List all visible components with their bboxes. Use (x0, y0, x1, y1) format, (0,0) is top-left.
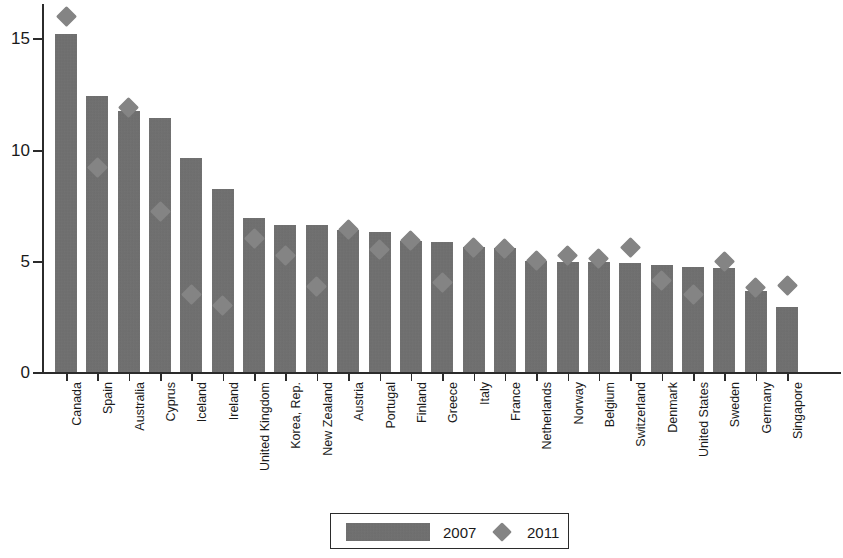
bar-france (494, 248, 516, 372)
bar-singapore (776, 307, 798, 372)
x-axis-tick-mark (129, 373, 131, 381)
legend-label-2011: 2011 (527, 525, 559, 540)
x-axis-tick-mark (160, 373, 162, 381)
x-axis-label-denmark: Denmark (667, 382, 680, 433)
x-axis-tick-mark (536, 373, 538, 381)
x-axis-tick-mark (756, 373, 758, 381)
x-axis-label-germany: Germany (761, 382, 774, 433)
x-axis-tick-mark (380, 373, 382, 381)
bar-netherlands (525, 261, 547, 372)
bar-norway (557, 262, 579, 372)
x-axis-tick-mark (693, 373, 695, 381)
x-axis-tick-mark (254, 373, 256, 381)
bar-ireland (212, 189, 234, 372)
bar-belgium (588, 262, 610, 372)
x-axis-label-netherlands: Netherlands (541, 382, 554, 449)
legend-label-2007: 2007 (443, 525, 476, 540)
x-axis-label-ireland: Ireland (228, 382, 241, 420)
x-axis-tick-mark (348, 373, 350, 381)
x-axis-label-cyprus: Cyprus (165, 382, 178, 422)
x-axis-label-australia: Australia (134, 382, 147, 431)
x-axis-label-canada: Canada (71, 382, 84, 426)
y-tick-label-5: 5 (2, 253, 30, 270)
x-axis-label-switzerland: Switzerland (635, 382, 648, 447)
y-axis-tick-mark (33, 38, 42, 40)
chart-figure: 15 10 5 0 CanadaSpainAustraliaCyprusIcel… (0, 0, 843, 558)
x-axis-label-united-kingdom: United Kingdom (259, 382, 272, 471)
x-axis-label-belgium: Belgium (604, 382, 617, 427)
x-axis-tick-mark (411, 373, 413, 381)
x-axis-tick-mark (66, 373, 68, 381)
x-axis-tick-mark (724, 373, 726, 381)
x-axis-label-austria: Austria (353, 382, 366, 421)
bar-finland (400, 241, 422, 372)
x-axis-label-portugal: Portugal (385, 382, 398, 429)
x-axis-tick-mark (630, 373, 632, 381)
x-axis-tick-mark (223, 373, 225, 381)
bar-greece (431, 242, 453, 372)
x-axis-label-norway: Norway (573, 382, 586, 424)
y-axis-labels: 15 10 5 0 (0, 0, 30, 373)
legend-swatch-2007 (346, 523, 430, 541)
bar-canada (55, 34, 77, 372)
x-axis-tick-mark (568, 373, 570, 381)
chart-legend: 2007 2011 (330, 513, 569, 549)
plot-series-area (42, 0, 843, 372)
x-axis-label-spain: Spain (102, 382, 115, 414)
x-axis-labels: CanadaSpainAustraliaCyprusIcelandIreland… (42, 382, 843, 502)
x-axis-tick-mark (599, 373, 601, 381)
bar-iceland (180, 158, 202, 372)
x-axis-tick-mark (97, 373, 99, 381)
x-axis-label-greece: Greece (447, 382, 460, 423)
marker-switzerland (620, 237, 641, 258)
x-axis-label-france: France (510, 382, 523, 421)
bar-switzerland (619, 263, 641, 372)
x-axis-label-finland: Finland (416, 382, 429, 423)
x-axis-label-korea-rep: Korea, Rep. (290, 382, 303, 449)
x-axis-tick-mark (662, 373, 664, 381)
bar-germany (745, 291, 767, 372)
marker-canada (55, 6, 76, 27)
y-axis-tick-mark (33, 372, 42, 374)
bar-italy (463, 247, 485, 372)
y-tick-label-10: 10 (2, 142, 30, 159)
x-axis-tick-mark (474, 373, 476, 381)
bar-new-zealand (306, 225, 328, 372)
marker-singapore (776, 275, 797, 296)
x-axis-tick-mark (442, 373, 444, 381)
bar-spain (86, 96, 108, 372)
y-tick-label-0: 0 (2, 364, 30, 381)
x-axis-tick-mark (317, 373, 319, 381)
x-axis-label-singapore: Singapore (792, 382, 805, 439)
legend-diamond-marker-2011 (492, 522, 512, 542)
x-axis-tick-mark (285, 373, 287, 381)
y-axis-tick-mark (33, 150, 42, 152)
bar-austria (337, 230, 359, 373)
bar-australia (118, 111, 140, 372)
x-axis-tick-mark (191, 373, 193, 381)
x-axis-label-italy: Italy (479, 382, 492, 405)
y-tick-label-15: 15 (2, 30, 30, 47)
x-axis-label-sweden: Sweden (729, 382, 742, 427)
y-axis-tick-mark (33, 261, 42, 263)
x-axis-tick-mark (787, 373, 789, 381)
x-axis-tick-mark (505, 373, 507, 381)
bar-sweden (713, 268, 735, 372)
bar-cyprus (149, 118, 171, 372)
x-axis-label-iceland: Iceland (196, 382, 209, 422)
x-axis-label-united-states: United States (698, 382, 711, 457)
x-axis-label-new-zealand: New Zealand (322, 382, 335, 456)
